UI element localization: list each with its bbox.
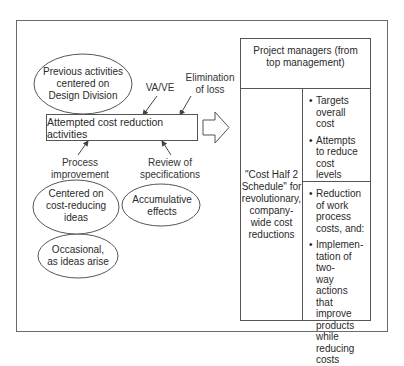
text-line: company- [242, 205, 302, 217]
text-line: of work [316, 200, 368, 212]
text-line: revolutionary, [242, 193, 302, 205]
text-line: cost [316, 118, 368, 130]
targets-cell: Targets overall cost Attempts to reduce … [303, 89, 370, 182]
text-line: while [316, 331, 368, 343]
text-line: Accumulative [132, 194, 191, 206]
text-line: way actions [316, 274, 368, 297]
text-line: overall [316, 107, 368, 119]
attempted-cost-reduction-box: Attempted cost reduction activities [46, 114, 198, 141]
text-line: costs [316, 354, 368, 366]
text-line: that improve [316, 297, 368, 320]
elimination-arrow [180, 96, 191, 115]
text-line: effects [132, 206, 191, 218]
reduction-cell: Reduction of work process costs, and: Im… [303, 182, 370, 320]
va-ve-arrow [143, 96, 157, 115]
text-line: Reduction [316, 188, 368, 200]
text-line: Schedule" for [242, 181, 302, 193]
text-line: Targets [316, 95, 368, 107]
text-line: Design Division [43, 90, 123, 102]
bullet-reduction: Reduction of work process costs, and: [309, 188, 368, 234]
text-line: ideas [46, 212, 106, 224]
text-line: costs, and: [316, 223, 368, 235]
text-line: cost [316, 158, 368, 170]
cost-half-schedule-cell: "Cost Half 2 Schedule" for revolutionary… [241, 89, 303, 320]
text-line: Implemen- [316, 239, 368, 251]
text-line: wide cost [242, 217, 302, 229]
accumulative-ellipse-label: Accumulative effects [124, 192, 200, 220]
text-line: Review of [130, 157, 210, 169]
bullet-attempts: Attempts to reduce cost levels [309, 135, 368, 181]
text-line: Centered on [46, 188, 106, 200]
text-line: process [316, 211, 368, 223]
text-line: top management) [241, 57, 370, 69]
text-line: to reduce [316, 146, 368, 158]
text-line: levels [316, 169, 368, 181]
previous-activities-label: Previous activities centered on Design D… [36, 62, 130, 106]
bullet-targets: Targets overall cost [309, 95, 368, 130]
text-line: Attempts [316, 135, 368, 147]
text-line: "Cost Half 2 [242, 169, 302, 181]
targets-list: Targets overall cost Attempts to reduce … [309, 95, 368, 181]
review-arrow [162, 141, 171, 155]
review-of-specifications-label: Review of specifications [130, 157, 210, 181]
text-line: reducing [316, 343, 368, 355]
bullet-implementation: Implemen- tation of two- way actions tha… [309, 239, 368, 366]
va-ve-label: VA/VE [140, 82, 180, 94]
text-line: products [316, 320, 368, 332]
project-managers-header: Project managers (from top management) [241, 39, 370, 89]
process-arrow [78, 141, 88, 155]
text-line: centered on [43, 78, 123, 90]
text-line: Previous activities [43, 66, 123, 78]
text-line: Occasional, [47, 244, 109, 256]
project-managers-box: Project managers (from top management) "… [240, 38, 371, 321]
text-line: Project managers (from [241, 45, 370, 57]
process-improvement-label: Process improvement [40, 157, 120, 181]
text-line: improvement [40, 169, 120, 181]
text-line: of loss [180, 84, 240, 96]
text-line: cost-reducing [46, 200, 106, 212]
right-block-arrow-icon [203, 112, 229, 143]
text-line: as ideas arise [47, 256, 109, 268]
occasional-ellipse-label: Occasional, as ideas arise [40, 242, 116, 270]
reduction-list: Reduction of work process costs, and: Im… [309, 188, 368, 366]
text-line: Elimination [180, 72, 240, 84]
text-line: reductions [242, 229, 302, 241]
text-line: Process [40, 157, 120, 169]
elimination-of-loss-label: Elimination of loss [180, 72, 240, 96]
text-line: specifications [130, 169, 210, 181]
centered-ellipse-label: Centered on cost-reducing ideas [36, 186, 116, 226]
text-line: tation of two- [316, 251, 368, 274]
